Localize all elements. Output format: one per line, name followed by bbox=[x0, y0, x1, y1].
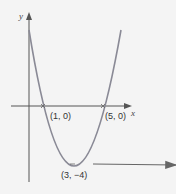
point-label-1-0: (1, 0) bbox=[50, 111, 71, 121]
y-axis-label: y bbox=[18, 11, 23, 21]
graph-canvas: y x (1, 0) (5, 0) (3, −4) bbox=[0, 0, 176, 194]
pointer-arrow bbox=[93, 164, 176, 165]
point-label-vertex: (3, −4) bbox=[61, 170, 87, 180]
x-axis-label: x bbox=[130, 108, 135, 118]
parabola-diagram: y x (1, 0) (5, 0) (3, −4) bbox=[0, 0, 176, 194]
point-label-5-0: (5, 0) bbox=[105, 111, 126, 121]
parabola-curve bbox=[29, 30, 121, 166]
